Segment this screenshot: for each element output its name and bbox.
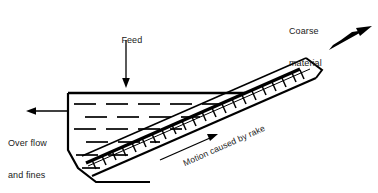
coarse-material-label-line2: material [289, 58, 322, 69]
overflow-label-line1: Over flow [8, 138, 47, 149]
coarse-discharge-arrow [329, 26, 372, 50]
feed-label: Feed [111, 24, 142, 56]
coarse-material-label-line1: Coarse [289, 26, 322, 37]
rake-classifier-figure: Feed Coarse material Over flow and fines… [0, 0, 378, 193]
coarse-material-label: Coarse material [289, 5, 322, 89]
overflow-arrow [26, 107, 68, 114]
overflow-label-line2: and fines [8, 170, 47, 181]
feed-label-text: Feed [121, 35, 142, 45]
overflow-label: Over flow and fines [8, 117, 47, 193]
